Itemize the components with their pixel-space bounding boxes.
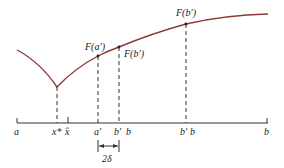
arrow-right-icon	[113, 144, 118, 148]
label-b: b	[126, 126, 131, 137]
label-a: a	[14, 126, 19, 137]
label-two-delta: 2δ	[102, 153, 112, 164]
point-f-b-prime	[118, 46, 121, 49]
minimization-diagram: F(a′) F(b′) F(b′) a x* x̂ a′ b′ b b′ b b…	[0, 0, 284, 168]
label-x-hat: x̂	[64, 126, 70, 137]
label-b-2: b	[190, 126, 195, 137]
label-x-star: x*	[51, 126, 61, 137]
label-f-b-prime-high: F(b′)	[175, 7, 197, 19]
label-b-prime-2: b′	[180, 126, 188, 137]
arrow-left-icon	[99, 144, 104, 148]
point-f-a-prime	[97, 55, 100, 58]
label-f-b-prime-low: F(b′)	[123, 48, 145, 60]
label-b-prime: b′	[114, 126, 122, 137]
label-b-end: b	[264, 126, 269, 137]
label-f-a-prime: F(a′)	[84, 41, 106, 53]
point-f-b-prime-far	[185, 23, 188, 26]
label-a-prime: a′	[94, 126, 102, 137]
